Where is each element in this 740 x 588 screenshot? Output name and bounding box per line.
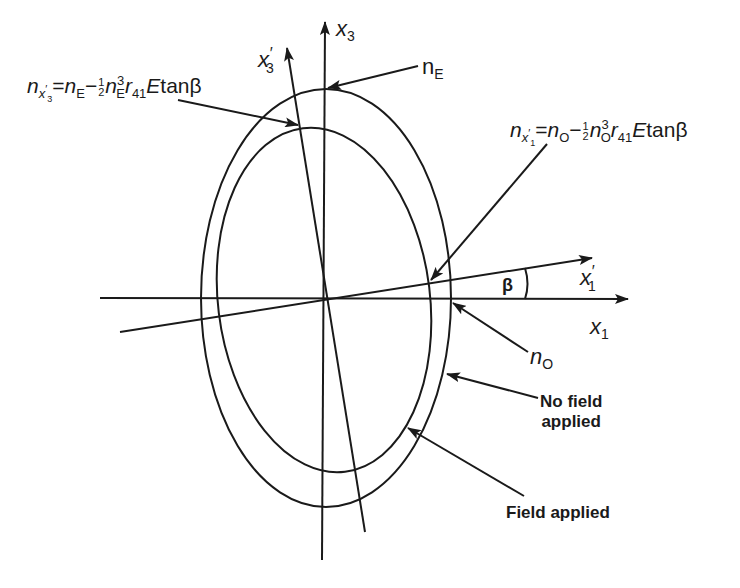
no-field-pointer-arrow: [447, 374, 538, 398]
x3-axis: [322, 22, 325, 560]
x1-axis: [100, 298, 628, 299]
x1-eq-pointer-arrow: [431, 144, 547, 280]
x1-prime-index-equation: nx′1=nO−12n3Or41Etanβ: [510, 118, 688, 148]
x1-prime-axis: [120, 258, 592, 332]
nE-label: nE: [422, 56, 444, 81]
no-field-applied-label: No field applied: [540, 392, 602, 431]
x3-prime-index-equation: nx′3=nE−12n3Er41Etanβ: [27, 74, 202, 104]
beta-angle-arc: [525, 268, 528, 299]
one-half-fraction: 12: [583, 121, 589, 141]
x3-axis-label: x3: [336, 18, 355, 43]
nE-pointer-arrow: [328, 66, 418, 88]
beta-angle-label: β: [502, 276, 513, 294]
x1-axis-label: x1: [590, 316, 609, 341]
x3-prime-axis-label: x′3: [258, 46, 274, 75]
x3-prime-axis: [287, 48, 365, 532]
one-half-fraction: 12: [98, 77, 104, 97]
nO-pointer-arrow: [453, 303, 528, 352]
index-ellipsoid-figure: x3 x′3 x′1 x1 β nE nO No field applied F…: [0, 0, 740, 588]
x1-prime-axis-label: x′1: [580, 264, 596, 293]
field-applied-label: Field applied: [506, 503, 610, 523]
field-applied-pointer-arrow: [408, 428, 524, 496]
nO-label: nO: [530, 346, 553, 371]
